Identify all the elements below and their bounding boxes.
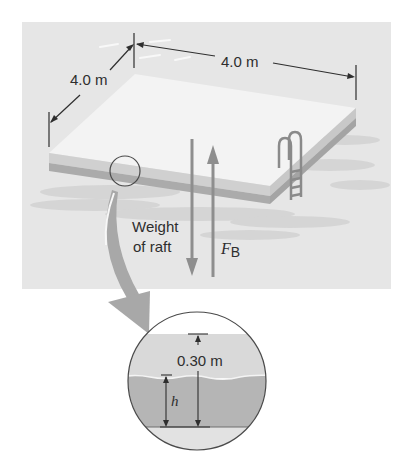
- inset-magnified-view: 0.30 m h: [120, 312, 280, 457]
- inset-thickness-label: 0.30 m: [177, 352, 223, 369]
- inset-water-below: [120, 427, 280, 457]
- buoyant-raft-diagram: 4.0 m 4.0 m Weight of raft FB: [0, 0, 406, 465]
- width-dimension-label: 4.0 m: [221, 53, 259, 70]
- inset-depth-symbol: h: [171, 393, 179, 409]
- depth-dimension-label: 4.0 m: [70, 71, 108, 88]
- inset-raft-submerged: [120, 375, 280, 427]
- weight-label-line1: Weight: [132, 218, 179, 235]
- weight-label-line2: of raft: [133, 238, 172, 255]
